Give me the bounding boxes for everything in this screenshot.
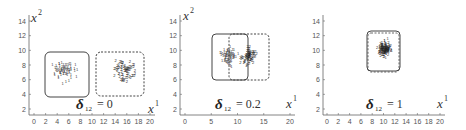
x-axis-label: x: [147, 101, 154, 116]
y-tick-label: 6: [173, 76, 177, 83]
panel-2: 2468101214 05101520 x 2 1111111111111111…: [169, 6, 297, 125]
y-tick-label: 2: [316, 106, 320, 113]
y-tick-label: 14: [169, 18, 177, 25]
data-point: 1: [76, 67, 79, 72]
x-tick-label: 6: [67, 118, 71, 125]
x-tick-label: 0: [325, 118, 329, 125]
delta-subscript: 12: [375, 105, 383, 113]
x-tick-label: 2: [44, 118, 48, 125]
y-tick-label: 4: [22, 91, 26, 98]
x-tick-label: 10: [88, 118, 96, 125]
y-tick-label: 2: [22, 106, 26, 113]
y-axis-label-sup: 2: [38, 8, 42, 17]
x-axis-label: x: [436, 96, 443, 111]
x-tick-label: 8: [370, 118, 374, 125]
y-tick-label: 8: [173, 62, 177, 69]
figure: 2468101214 02468101214161820 x 2 1111111…: [0, 0, 466, 130]
y-tick-label: 12: [169, 32, 177, 39]
delta-symbol: δ: [76, 96, 84, 112]
y-tick-label: 10: [18, 47, 26, 54]
x-tick-label: 12: [100, 118, 108, 125]
x-tick-label: 15: [260, 118, 268, 125]
y-tick-label: 6: [316, 76, 320, 83]
data-point: 2: [134, 68, 137, 73]
data-point: 1: [75, 74, 78, 79]
y-tick-label: 10: [169, 47, 177, 54]
y-tick-label: 12: [312, 32, 320, 39]
x-tick-label: 18: [425, 118, 433, 125]
y-tick-label: 8: [316, 62, 320, 69]
y-axis-label-sup: 2: [190, 6, 194, 15]
x-tick-label: 14: [402, 118, 410, 125]
delta-value: = 0: [97, 97, 113, 111]
x-tick-label: 16: [123, 118, 131, 125]
x-tick-label: 5: [209, 118, 213, 125]
delta-subscript: 12: [85, 105, 93, 113]
x-tick-label: 6: [359, 118, 363, 125]
y-tick-label: 4: [173, 91, 177, 98]
y-axis-label: x: [30, 10, 37, 25]
x-tick-label: 10: [234, 118, 242, 125]
x-axis-label-sup: 1: [444, 94, 448, 103]
x-tick-label: 12: [391, 118, 399, 125]
x-tick-label: 20: [436, 118, 444, 125]
x-tick-label: 20: [146, 118, 154, 125]
y-axis-label: x: [182, 8, 189, 23]
y-tick-label: 14: [312, 18, 320, 25]
data-point: 2: [113, 73, 116, 78]
x-tick-label: 8: [78, 118, 82, 125]
x-tick-label: 4: [348, 118, 352, 125]
data-point: 2: [255, 51, 258, 56]
y-tick-label: 12: [18, 32, 26, 39]
x-tick-label: 4: [55, 118, 59, 125]
delta-value: = 1: [387, 97, 403, 111]
x-tick-label: 18: [135, 118, 143, 125]
x-axis-label-sup: 1: [155, 99, 159, 108]
delta-symbol: δ: [215, 96, 223, 112]
x-tick-label: 10: [380, 118, 388, 125]
y-tick-label: 4: [316, 91, 320, 98]
x-tick-label: 16: [414, 118, 422, 125]
x-tick-label: 0: [32, 118, 36, 125]
y-tick-label: 10: [312, 47, 320, 54]
panel-3: 2468101214 02468101214161820 11111111111…: [312, 15, 448, 125]
panel-1: 2468101214 02468101214161820 x 2 1111111…: [18, 8, 159, 125]
y-tick-label: 2: [173, 106, 177, 113]
x-tick-label: 14: [111, 118, 119, 125]
delta-subscript: 12: [224, 105, 232, 113]
x-axis-label-sup: 1: [293, 94, 297, 103]
x-tick-label: 20: [286, 118, 294, 125]
y-tick-label: 14: [18, 18, 26, 25]
x-tick-label: 0: [183, 118, 187, 125]
delta-value: = 0.2: [236, 97, 261, 111]
y-tick-label: 6: [22, 76, 26, 83]
delta-symbol: δ: [366, 96, 374, 112]
y-tick-label: 8: [22, 62, 26, 69]
x-tick-label: 2: [336, 118, 340, 125]
x-axis-label: x: [285, 96, 292, 111]
